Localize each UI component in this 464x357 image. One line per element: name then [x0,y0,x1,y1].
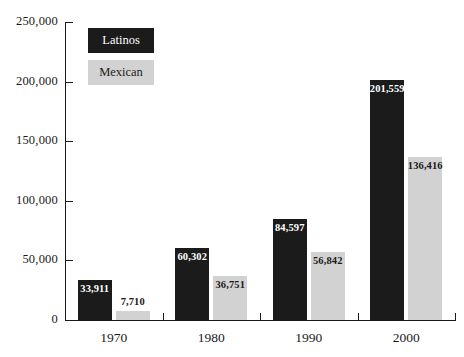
y-axis-tick [65,82,73,83]
y-axis-line [65,22,66,321]
bar-value-label: 33,911 [80,283,109,294]
bar-value-label: 136,416 [408,160,443,171]
x-axis-end-cap [455,313,456,321]
x-axis-category-label: 1970 [74,330,154,346]
bar-latinos-1970: 33,911 [78,280,112,320]
y-axis-tick-label: 0 [0,312,58,327]
bar-chart: Latinos Mexican 050,000100,000150,000200… [0,0,464,357]
y-axis-tick-label: 200,000 [0,74,58,89]
x-axis-tick [163,313,164,321]
bar-mexican-2000: 136,416 [408,157,442,320]
bar-value-label: 201,559 [370,83,405,94]
bar-value-label: 7,710 [121,296,145,307]
y-axis-tick [65,22,73,23]
y-axis-tick-label: 100,000 [0,193,58,208]
bar-mexican-1990: 56,842 [311,252,345,320]
x-axis-category-label: 2000 [366,330,446,346]
bar-mexican-1970: 7,710 [116,311,150,320]
bar-value-label: 56,842 [313,255,342,266]
bar-latinos-1990: 84,597 [273,219,307,320]
x-axis-tick [260,313,261,321]
x-axis-category-label: 1990 [269,330,349,346]
bar-mexican-1980: 36,751 [213,276,247,320]
bar-latinos-1980: 60,302 [175,248,209,320]
y-axis-tick-label: 250,000 [0,14,58,29]
legend-item-latinos: Latinos [88,28,154,53]
bar-value-label: 60,302 [178,251,207,262]
legend-label-mexican: Mexican [99,65,143,80]
y-axis-tick-label: 150,000 [0,133,58,148]
y-axis-tick [65,260,73,261]
legend-item-mexican: Mexican [88,60,154,85]
x-axis-tick [358,313,359,321]
bar-value-label: 36,751 [216,279,245,290]
y-axis-tick [65,141,73,142]
bar-latinos-2000: 201,559 [370,80,404,320]
bar-value-label: 84,597 [275,222,304,233]
y-axis-tick-label: 50,000 [0,252,58,267]
y-axis-tick [65,201,73,202]
x-axis-category-label: 1980 [171,330,251,346]
x-axis-end-cap [65,313,66,321]
y-axis-tick [65,320,73,321]
legend-label-latinos: Latinos [102,33,140,48]
